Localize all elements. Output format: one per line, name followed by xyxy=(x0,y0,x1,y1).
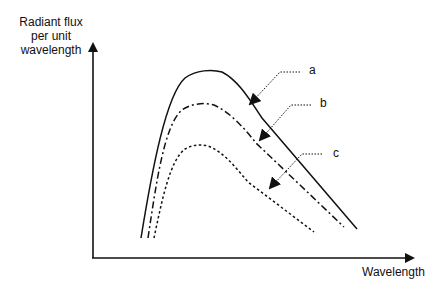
y-axis-label-line-3: wavelength xyxy=(12,43,90,57)
y-axis-label: Radiant flux per unit wavelength xyxy=(12,15,90,57)
pointer-c xyxy=(270,154,322,188)
curve-c xyxy=(154,145,314,238)
curve-label-b: b xyxy=(320,96,327,110)
y-axis-label-line-2: per unit xyxy=(12,29,90,43)
x-axis-label: Wavelength xyxy=(362,265,425,279)
curve-label-c: c xyxy=(333,146,339,160)
y-axis-label-line-1: Radiant flux xyxy=(12,15,90,29)
curve-label-a: a xyxy=(309,63,316,77)
pointer-a xyxy=(250,72,300,104)
pointer-b xyxy=(260,105,311,140)
curve-b xyxy=(148,104,344,238)
